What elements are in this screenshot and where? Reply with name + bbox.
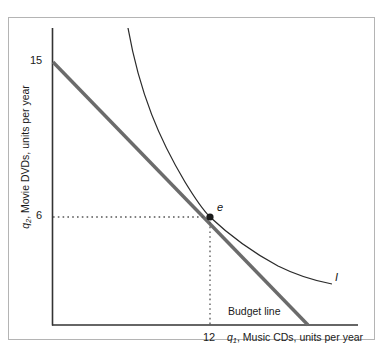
x-axis-label-text: , Music CDs, units per year — [237, 331, 363, 343]
y-axis-tick-6: 6 — [36, 209, 42, 221]
indifference-curve-label: I — [335, 271, 338, 283]
y-axis-tick-15: 15 — [30, 54, 42, 66]
y-axis-label-subscript: 2 — [24, 219, 33, 223]
y-axis-label-text: , Movie DVDs, units per year — [19, 85, 31, 219]
y-axis-label: q2, Movie DVDs, units per year — [19, 57, 33, 257]
x-axis-tick-12: 12 — [203, 331, 215, 343]
y-axis-label-var: q — [19, 223, 31, 229]
x-axis-label: q1, Music CDs, units per year — [227, 331, 363, 345]
figure-root: q2, Movie DVDs, units per year q1, Music… — [0, 0, 389, 363]
optimum-point-label: e — [217, 201, 223, 213]
figure-top-caption — [40, 0, 340, 14]
figure-border-box — [8, 17, 375, 340]
budget-line-label: Budget line — [228, 305, 281, 317]
